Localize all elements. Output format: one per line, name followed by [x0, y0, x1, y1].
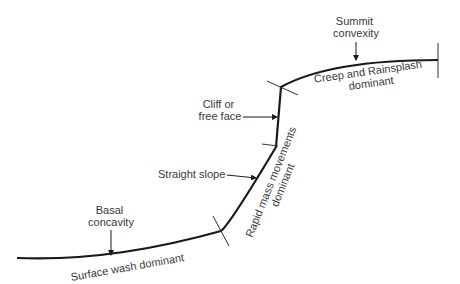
label-basal-concavity: Basal concavity [88, 204, 134, 228]
hillslope-diagram: Summit convexity Cliff or free face Stra… [0, 0, 460, 284]
label-summit-convexity: Summit convexity [333, 15, 379, 39]
label-straight-slope: Straight slope [158, 168, 225, 180]
tick-basal-straight [213, 216, 229, 246]
slope-profile [17, 60, 438, 258]
arrow-straight [227, 175, 256, 178]
label-cliff-free-face: Cliff or free face [199, 98, 242, 122]
tick-cliff-summit [267, 81, 298, 95]
